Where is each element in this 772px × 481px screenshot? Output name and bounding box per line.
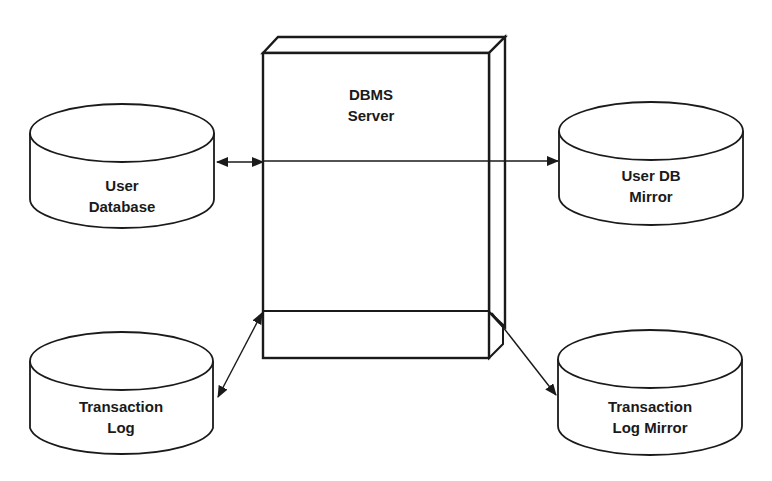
arrow-transaction-log-server <box>218 313 262 397</box>
user-db-mirror-label: User DB Mirror <box>591 165 711 207</box>
user-db-mirror-label-line1: User DB <box>591 165 711 186</box>
transaction-log-label-line1: Transaction <box>61 396 181 417</box>
server-label-line2: Server <box>321 105 421 126</box>
transaction-log-label-line2: Log <box>61 417 181 438</box>
transaction-log-mirror-label: Transaction Log Mirror <box>590 396 710 438</box>
user-database-label-line1: User <box>62 175 182 196</box>
server-label-line1: DBMS <box>321 84 421 105</box>
user-database-label: User Database <box>62 175 182 217</box>
transaction-log-mirror-label-line2: Log Mirror <box>590 417 710 438</box>
user-db-mirror-label-line2: Mirror <box>591 186 711 207</box>
transaction-log-mirror-label-line1: Transaction <box>590 396 710 417</box>
transaction-log-label: Transaction Log <box>61 396 181 438</box>
user-database-label-line2: Database <box>62 196 182 217</box>
server-label: DBMS Server <box>321 84 421 126</box>
server-side-face <box>489 37 505 327</box>
arrow-server-transaction-log-mirror <box>492 313 556 395</box>
server-top-face <box>263 37 505 53</box>
